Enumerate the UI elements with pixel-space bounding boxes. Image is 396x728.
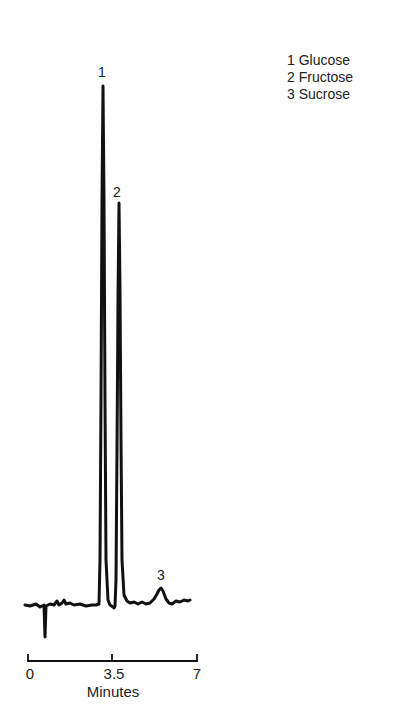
peak-label-2: 2 [113, 184, 121, 200]
x-tick-label-7: 7 [193, 665, 201, 682]
x-tick-label-3-5: 3.5 [104, 665, 125, 682]
peak-label-3: 3 [157, 567, 165, 583]
legend-item-sucrose: 3 Sucrose [287, 86, 353, 103]
legend-item-glucose: 1 Glucose [287, 52, 353, 69]
legend-item-fructose: 2 Fructose [287, 69, 353, 86]
x-axis [28, 654, 197, 662]
peak-label-1: 1 [98, 64, 106, 80]
chromatogram-trace [25, 86, 190, 637]
chromatogram-plot [0, 0, 396, 728]
chart-legend: 1 Glucose 2 Fructose 3 Sucrose [287, 52, 353, 103]
x-axis-title: Minutes [87, 683, 140, 700]
x-tick-label-0: 0 [26, 665, 34, 682]
